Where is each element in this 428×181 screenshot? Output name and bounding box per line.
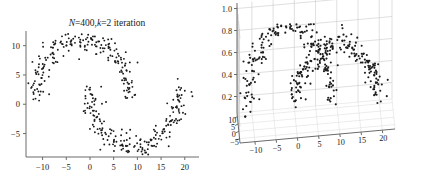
- data-point: [109, 49, 111, 51]
- data-point: [258, 73, 260, 75]
- data-point: [319, 62, 321, 64]
- data-point: [370, 86, 372, 88]
- data-point: [329, 77, 331, 79]
- y-axis-ticks: −50510: [11, 41, 26, 139]
- data-point: [309, 60, 311, 62]
- data-point: [95, 45, 97, 47]
- data-point: [375, 78, 377, 80]
- x-axis-ticks: −10−505101520: [36, 157, 189, 172]
- data-point: [155, 134, 157, 136]
- data-point: [249, 84, 251, 86]
- data-point: [131, 96, 133, 98]
- data-point: [270, 43, 272, 45]
- data-point: [142, 153, 144, 155]
- data-point: [300, 35, 302, 37]
- data-point: [343, 51, 345, 53]
- data-point: [123, 79, 125, 81]
- data-point: [101, 123, 103, 125]
- x-tick-label: 15: [358, 136, 366, 145]
- data-point: [129, 129, 131, 131]
- data-point: [38, 84, 40, 86]
- data-point: [161, 130, 163, 132]
- data-point: [364, 72, 366, 74]
- data-point: [165, 125, 167, 127]
- data-point: [300, 71, 302, 73]
- data-point: [292, 30, 294, 32]
- data-point: [242, 61, 244, 63]
- data-point: [327, 66, 329, 68]
- data-point: [155, 146, 157, 148]
- data-point: [84, 49, 86, 51]
- data-point: [152, 145, 154, 147]
- data-point: [101, 134, 103, 136]
- data-point: [153, 137, 155, 139]
- data-point: [374, 62, 376, 64]
- data-point: [319, 53, 321, 55]
- data-point: [291, 97, 293, 99]
- data-point: [374, 64, 376, 66]
- data-point: [317, 46, 319, 48]
- data-point: [141, 147, 143, 149]
- data-point: [319, 60, 321, 62]
- data-point: [324, 36, 326, 38]
- z-tick-label: 0.8: [222, 27, 232, 36]
- data-point: [342, 34, 344, 36]
- data-point: [314, 68, 316, 70]
- data-point: [322, 53, 324, 55]
- data-point: [153, 129, 155, 131]
- data-point: [72, 38, 74, 40]
- data-point: [325, 58, 327, 60]
- data-point: [177, 120, 179, 122]
- data-point: [89, 128, 91, 130]
- data-point: [326, 54, 328, 56]
- data-point: [265, 36, 267, 38]
- data-point: [329, 84, 331, 86]
- data-point: [329, 81, 331, 83]
- data-point: [330, 61, 332, 63]
- data-point: [320, 39, 322, 41]
- data-point: [175, 118, 177, 120]
- data-point: [41, 77, 43, 79]
- data-point: [123, 83, 125, 85]
- x-tick-label: 10: [337, 138, 345, 147]
- data-point: [31, 61, 33, 63]
- y-tick-label: 10: [228, 116, 236, 125]
- data-point: [318, 66, 320, 68]
- data-point: [42, 91, 44, 93]
- data-point: [123, 140, 125, 142]
- data-point: [327, 50, 329, 52]
- data-point: [280, 24, 282, 26]
- data-point: [377, 79, 379, 81]
- data-point: [32, 91, 34, 93]
- data-point: [183, 104, 185, 106]
- data-point: [120, 57, 122, 59]
- data-point: [364, 81, 366, 83]
- data-point: [303, 46, 305, 48]
- data-point: [377, 63, 379, 65]
- data-point: [369, 65, 371, 67]
- data-point: [89, 87, 91, 89]
- data-point: [86, 49, 88, 51]
- x-tick-label: −10: [36, 162, 49, 172]
- data-point: [177, 78, 179, 80]
- data-point: [348, 45, 350, 47]
- data-point: [310, 45, 312, 47]
- data-point: [313, 23, 315, 25]
- data-point: [307, 75, 309, 77]
- data-point: [366, 54, 368, 56]
- data-point: [40, 90, 42, 92]
- data-point: [169, 136, 171, 138]
- data-point: [47, 57, 49, 59]
- data-point: [103, 120, 105, 122]
- data-point: [244, 97, 246, 99]
- data-point: [94, 131, 96, 133]
- data-point: [330, 97, 332, 99]
- data-point: [94, 36, 96, 38]
- data-point: [310, 43, 312, 45]
- data-point: [125, 69, 127, 71]
- data-point: [258, 98, 260, 100]
- data-point: [254, 81, 256, 83]
- data-point: [377, 83, 379, 85]
- data-point: [44, 80, 46, 82]
- plot-2d-svg: N=400,k=2 iteration −50510 −10−505101520: [0, 0, 214, 181]
